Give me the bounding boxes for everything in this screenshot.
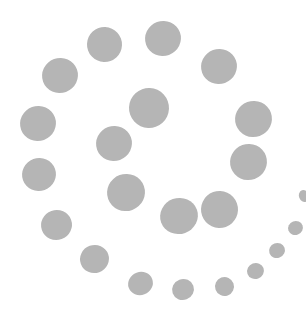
dot-3 <box>196 43 242 88</box>
dot-21 <box>297 189 306 204</box>
dot-1 <box>140 15 186 60</box>
dot-2 <box>37 52 83 97</box>
dot-20 <box>286 219 305 237</box>
dot-5 <box>15 100 61 145</box>
dot-6 <box>229 96 276 142</box>
dot-12 <box>155 193 203 240</box>
dot-19 <box>267 240 287 260</box>
dot-17 <box>212 274 236 298</box>
dot-11 <box>195 185 242 232</box>
dot-13 <box>36 206 75 245</box>
dot-4 <box>123 82 174 133</box>
dot-10 <box>102 168 150 216</box>
dot-16 <box>169 275 197 302</box>
dot-14 <box>76 241 113 277</box>
dot-7 <box>91 120 137 165</box>
spiral-dots-graphic <box>0 0 306 312</box>
dot-9 <box>17 153 60 196</box>
dot-8 <box>224 139 271 185</box>
dot-18 <box>244 261 265 282</box>
dot-15 <box>124 268 155 298</box>
dot-0 <box>82 22 127 67</box>
